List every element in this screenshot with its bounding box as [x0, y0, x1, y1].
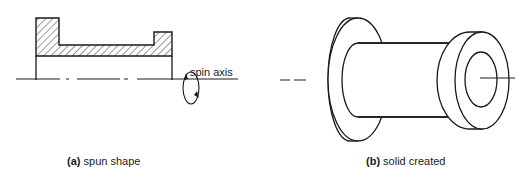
caption-a-label: (a) [67, 155, 80, 167]
hatched-profile [36, 18, 172, 56]
figure-canvas: spin axis [0, 0, 529, 181]
spun-profile-panel: spin axis [16, 18, 238, 104]
solid-panel [280, 18, 515, 141]
caption-b-label: (b) [366, 155, 380, 167]
right-flange-front [455, 32, 509, 129]
caption-a-text: spun shape [84, 155, 141, 167]
caption-b: (b) solid created [366, 155, 445, 167]
spin-axis-label: spin axis [190, 66, 233, 78]
caption-a: (a) spun shape [67, 155, 140, 167]
caption-b-text: solid created [383, 155, 445, 167]
